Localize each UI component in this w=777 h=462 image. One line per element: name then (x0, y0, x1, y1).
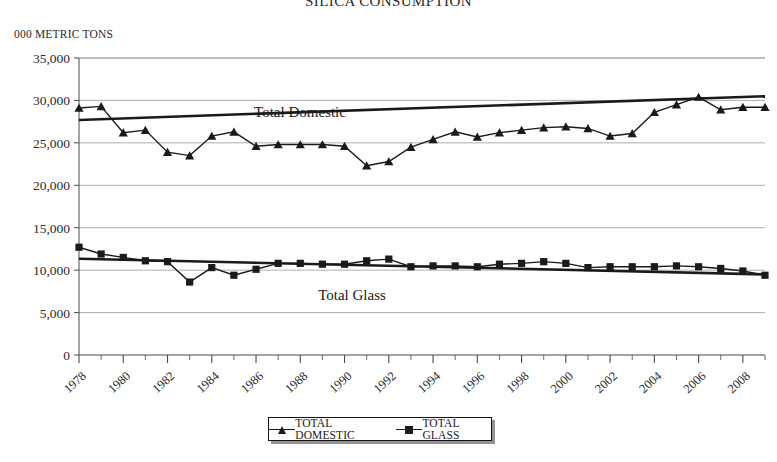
x-axis-tick-label: 1978 (61, 369, 89, 396)
gridlines-group (74, 58, 765, 355)
trendline (79, 96, 765, 120)
data-point-marker (474, 263, 481, 270)
data-point-marker (695, 263, 702, 270)
data-point-marker (672, 100, 681, 108)
y-axis-tick-label: 20,000 (33, 178, 70, 193)
data-point-marker (186, 278, 193, 285)
legend-entry-label: TOTAL GLASS (422, 417, 491, 441)
marker-glyph (405, 426, 413, 434)
x-axis-tick-labels-group: 1978198019821984198619881990199219941996… (61, 368, 753, 396)
series-line (79, 247, 765, 282)
y-axis-tick-labels-group: 35,00030,00025,00020,00015,00010,0005,00… (33, 51, 70, 363)
x-axis-tick-label: 1986 (238, 369, 266, 396)
data-point-marker (429, 262, 436, 269)
data-point-marker (385, 256, 392, 263)
legend-entry[interactable]: TOTAL GLASS (396, 417, 491, 441)
data-point-marker (120, 254, 127, 261)
legend-entry[interactable]: TOTAL DOMESTIC (269, 417, 384, 441)
y-axis-tick-label: 25,000 (33, 136, 70, 151)
x-axis-ticks-group (79, 355, 765, 363)
triangle-marker-icon (269, 424, 292, 435)
x-axis-tick-label: 2002 (592, 369, 620, 396)
y-axis-tick-label: 30,000 (33, 93, 70, 108)
data-point-marker (229, 127, 238, 135)
data-point-marker (629, 263, 636, 270)
x-axis-tick-label: 2008 (725, 369, 753, 396)
data-point-marker (428, 135, 437, 143)
data-point-marker (518, 260, 525, 267)
data-point-marker (275, 260, 282, 267)
series-annotation: Total Domestic (254, 104, 346, 120)
data-point-marker (319, 261, 326, 268)
y-axis-tick-label: 0 (63, 348, 70, 363)
x-axis-tick-label: 1990 (327, 369, 355, 396)
data-point-marker (407, 263, 414, 270)
data-point-marker (584, 264, 591, 271)
x-axis-tick-label: 1982 (150, 369, 178, 396)
x-axis-tick-label: 1996 (459, 369, 487, 396)
data-point-marker (297, 260, 304, 267)
data-point-marker (164, 258, 171, 265)
data-point-marker (230, 272, 237, 279)
data-series-group (74, 93, 769, 286)
data-point-marker (75, 244, 82, 251)
chart-container: SILICA CONSUMPTION 000 METRIC TONS 35,00… (0, 0, 777, 462)
data-point-marker (562, 260, 569, 267)
x-axis-tick-label: 1988 (282, 369, 310, 396)
x-axis-tick-label: 1998 (504, 369, 532, 396)
x-axis-tick-label: 1992 (371, 369, 399, 396)
data-point-marker (761, 272, 768, 279)
data-point-marker (694, 93, 703, 101)
data-point-marker (208, 264, 215, 271)
data-point-marker (540, 258, 547, 265)
data-point-marker (98, 250, 105, 257)
legend-entries: TOTAL DOMESTICTOTAL GLASS (269, 418, 491, 440)
square-marker-icon (396, 424, 419, 435)
x-axis-tick-label: 2000 (548, 369, 576, 396)
data-point-marker (142, 257, 149, 264)
data-point-marker (717, 265, 724, 272)
x-axis-tick-label: 2006 (681, 369, 709, 396)
data-point-marker (673, 262, 680, 269)
data-point-marker (496, 261, 503, 268)
x-axis-tick-label: 1980 (105, 369, 133, 396)
data-point-marker (341, 261, 348, 268)
y-axis-tick-label: 10,000 (33, 263, 70, 278)
series-annotations-group: Total DomesticTotal Glass (254, 104, 386, 303)
data-point-marker (384, 157, 393, 165)
data-point-marker (739, 267, 746, 274)
data-point-marker (452, 262, 459, 269)
data-point-marker (606, 263, 613, 270)
y-axis-tick-label: 5,000 (40, 306, 71, 321)
data-point-marker (651, 263, 658, 270)
data-point-marker (252, 266, 259, 273)
y-axis-tick-label: 35,000 (33, 51, 70, 66)
x-axis-tick-label: 1984 (194, 368, 223, 396)
x-axis-tick-label: 2004 (636, 368, 665, 396)
chart-legend[interactable]: TOTAL DOMESTICTOTAL GLASS (268, 417, 492, 441)
data-point-marker (363, 257, 370, 264)
data-point-marker (406, 143, 415, 151)
chart-plot-svg: 35,00030,00025,00020,00015,00010,0005,00… (0, 0, 777, 462)
data-point-marker (650, 108, 659, 116)
data-point-marker (451, 127, 460, 135)
legend-entry-label: TOTAL DOMESTIC (295, 417, 384, 441)
series-annotation: Total Glass (318, 287, 386, 303)
x-axis-tick-label: 1994 (415, 368, 444, 396)
y-axis-tick-label: 15,000 (33, 221, 70, 236)
marker-glyph (278, 426, 286, 434)
